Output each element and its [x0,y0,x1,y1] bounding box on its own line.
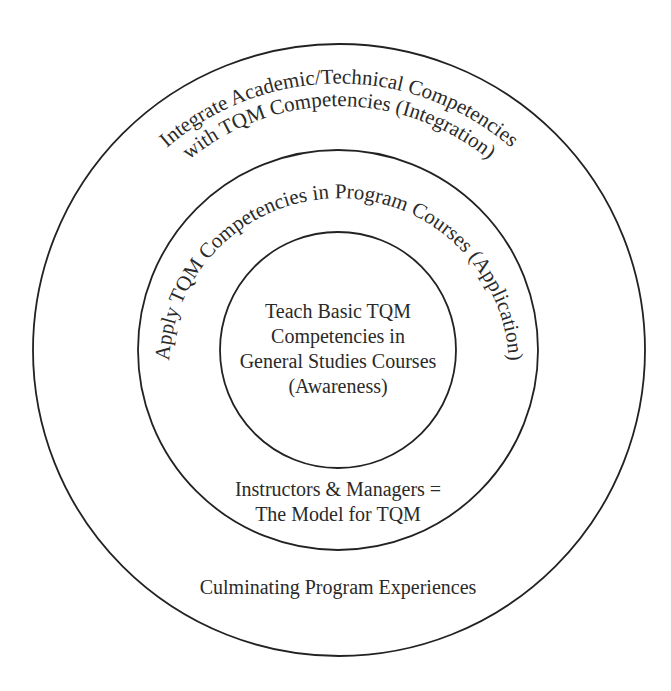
diagram-canvas: Integrate Academic/Technical Competencie… [0,0,671,691]
outer-bottom-label: Culminating Program Experiences [200,576,477,599]
middle-bottom-line-1: Instructors & Managers = [235,478,441,501]
middle-bottom-line-2: The Model for TQM [255,503,421,525]
inner-text-line-1: Teach Basic TQM [265,300,411,322]
inner-text-line-2: Competencies in [271,325,405,348]
inner-text-line-3: General Studies Courses [240,350,437,372]
inner-text-line-4: (Awareness) [288,375,387,398]
tqm-concentric-diagram: Integrate Academic/Technical Competencie… [0,0,671,691]
